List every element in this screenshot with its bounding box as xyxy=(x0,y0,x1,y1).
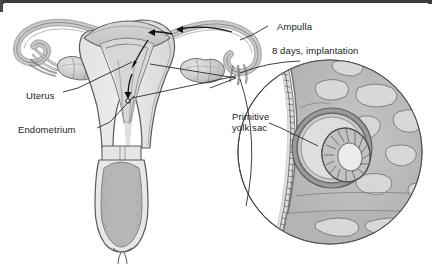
figure-left-edge-mark xyxy=(0,0,3,12)
label-ampulla: Ampulla xyxy=(277,21,312,32)
figure-top-border-inner xyxy=(4,3,428,5)
right-ovary xyxy=(180,58,224,83)
label-uterus: Uterus xyxy=(26,90,55,101)
vagina xyxy=(95,160,148,264)
leader-ampulla xyxy=(252,26,268,35)
implantation-inset xyxy=(238,48,432,256)
label-primitive-yolk-sac: Primitive yolk sac xyxy=(232,111,269,133)
label-implantation: 8 days, implantation xyxy=(272,45,359,56)
label-endometrium: Endometrium xyxy=(18,124,76,135)
figure-canvas: Ampulla 8 days, implantation Uterus Endo… xyxy=(0,0,432,268)
